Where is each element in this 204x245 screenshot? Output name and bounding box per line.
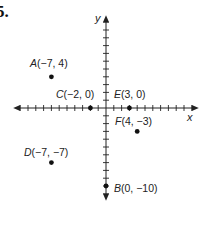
y-axis-label: y — [94, 12, 102, 24]
point-d — [49, 160, 54, 165]
point-label-a: A(−7, 4) — [29, 57, 68, 69]
point-label-b: B(0, −10) — [114, 182, 158, 194]
point-e — [127, 106, 132, 111]
x-axis-arrow-left-icon — [13, 105, 20, 111]
point-label-d: D(−7, −7) — [24, 146, 68, 158]
point-b — [104, 184, 109, 189]
y-axis-arrow-down-icon — [103, 194, 109, 201]
point-label-f: F(4, −3) — [115, 115, 152, 127]
point-c — [88, 106, 93, 111]
x-axis-arrow-right-icon — [192, 105, 199, 111]
coordinate-plane: y x A(−7, 4) C(−2, 0) E(3, 0) F(4, −3) D… — [0, 0, 204, 245]
x-axis-label: x — [186, 111, 193, 123]
axes — [13, 15, 199, 201]
point-a — [49, 74, 54, 79]
point-label-c: C(−2, 0) — [56, 88, 94, 100]
y-axis-arrow-up-icon — [103, 15, 109, 22]
point-f — [135, 129, 140, 134]
point-label-e: E(3, 0) — [114, 88, 146, 100]
